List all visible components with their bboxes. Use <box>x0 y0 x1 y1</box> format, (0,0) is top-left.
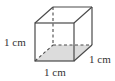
cube-diagram: 1 cm 1 cm 1 cm <box>0 0 115 81</box>
height-label: 1 cm <box>4 36 26 48</box>
depth-label: 1 cm <box>89 53 111 65</box>
width-label: 1 cm <box>44 66 66 78</box>
